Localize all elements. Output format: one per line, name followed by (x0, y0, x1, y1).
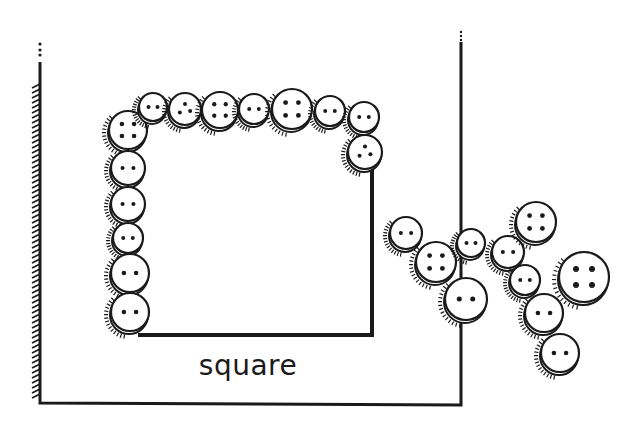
loose-buttons (383, 202, 609, 380)
button-icon (341, 135, 382, 177)
button-icon (195, 92, 238, 136)
square-outline (138, 170, 372, 335)
button-icon (308, 96, 345, 134)
button-icon (518, 294, 563, 340)
button-sorting-diagram: square (0, 0, 638, 439)
buttons-forming-square (102, 89, 382, 339)
button-icon (409, 242, 456, 290)
button-icon (383, 217, 422, 257)
button-icon (232, 94, 269, 132)
button-icon (342, 102, 379, 140)
button-icon (104, 293, 149, 339)
button-icon (534, 334, 579, 380)
button-icon (265, 89, 312, 137)
diagram-canvas (0, 0, 638, 439)
shape-label: square (188, 349, 308, 382)
button-icon (552, 252, 609, 310)
button-icon (438, 278, 487, 328)
